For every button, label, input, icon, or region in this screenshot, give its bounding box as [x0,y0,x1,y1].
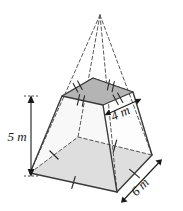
geometry-figure: 5 m 4 m 6 m [0,0,183,211]
base-edge-label: 6 m [128,175,152,199]
height-label: 5 m [7,129,26,144]
frustum-diagram: 5 m 4 m 6 m [0,0,183,211]
